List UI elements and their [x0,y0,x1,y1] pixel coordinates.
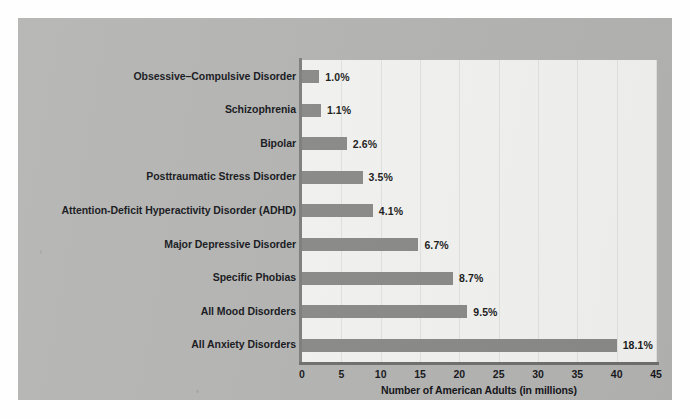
x-axis-tick-labels: 051015202530354045 [302,368,656,384]
bar[interactable] [302,339,617,352]
chart-screenshot: 1.0%1.1%2.6%3.5%4.1%6.7%8.7%9.5%18.1% Ob… [0,0,690,418]
category-label: Attention-Deficit Hyperactivity Disorder… [26,204,296,216]
x-tick-label: 15 [414,368,426,380]
bar-row[interactable]: 6.7% [302,228,656,262]
bar[interactable] [302,238,418,251]
x-tick-label: 25 [493,368,505,380]
bar-row[interactable]: 3.5% [302,161,656,195]
x-tick-label: 35 [571,368,583,380]
category-label: Obsessive–Compulsive Disorder [26,70,296,82]
scan-speckle [196,390,199,393]
category-label: Specific Phobias [26,271,296,283]
bar-value-label: 6.7% [424,239,448,251]
category-label: All Mood Disorders [26,305,296,317]
bar[interactable] [302,305,467,318]
bar-value-label: 1.0% [325,71,349,83]
bar-value-label: 18.1% [623,339,653,351]
bar[interactable] [302,171,363,184]
bar-value-label: 2.6% [353,138,377,150]
bar-value-label: 4.1% [379,205,403,217]
x-tick-label: 0 [299,368,305,380]
bar-value-label: 9.5% [473,306,497,318]
bar[interactable] [302,204,373,217]
category-label: Bipolar [26,137,296,149]
bar-value-label: 1.1% [327,104,351,116]
bars-layer: 1.0%1.1%2.6%3.5%4.1%6.7%8.7%9.5%18.1% [302,60,656,362]
category-label: Major Depressive Disorder [26,238,296,250]
category-axis-labels: Obsessive–Compulsive DisorderSchizophren… [22,60,296,362]
bar-value-label: 3.5% [369,171,393,183]
x-tick-label: 40 [611,368,623,380]
bar[interactable] [302,272,453,285]
category-label: All Anxiety Disorders [26,338,296,350]
bar-row[interactable]: 1.1% [302,94,656,128]
bar-row[interactable]: 18.1% [302,328,656,362]
gridline [656,60,657,362]
bar-row[interactable]: 4.1% [302,194,656,228]
x-tick-label: 45 [650,368,662,380]
bar[interactable] [302,137,347,150]
x-tick-label: 20 [453,368,465,380]
category-label: Schizophrenia [26,103,296,115]
x-tick-label: 10 [375,368,387,380]
x-axis-title: Number of American Adults (in millions) [302,384,656,396]
bar-value-label: 8.7% [459,272,483,284]
figure-panel: 1.0%1.1%2.6%3.5%4.1%6.7%8.7%9.5%18.1% Ob… [18,18,672,400]
bar[interactable] [302,70,319,83]
x-tick-label: 30 [532,368,544,380]
bar-row[interactable]: 1.0% [302,60,656,94]
bar[interactable] [302,104,321,117]
bar-row[interactable]: 2.6% [302,127,656,161]
bar-row[interactable]: 9.5% [302,295,656,329]
bar-row[interactable]: 8.7% [302,261,656,295]
x-tick-label: 5 [338,368,344,380]
category-label: Posttraumatic Stress Disorder [26,170,296,182]
x-axis-line [299,362,659,365]
